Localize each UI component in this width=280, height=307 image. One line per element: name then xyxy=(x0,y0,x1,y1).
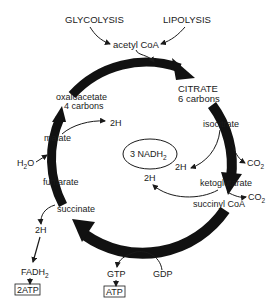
arrow-2h-to-fadh-icon xyxy=(33,237,40,262)
gtp-label: GTP xyxy=(107,269,126,279)
fadh-atp-label: 2ATP xyxy=(17,285,39,295)
h2o-label: H2O xyxy=(17,158,34,170)
input-lipolysis: LIPOLYSIS xyxy=(163,14,211,25)
arrow-keto-to-co2-icon xyxy=(227,192,246,197)
arc-succinate-to-oxaloacetate xyxy=(51,118,63,205)
gdp-label: GDP xyxy=(153,269,173,279)
succinate-2h: 2H xyxy=(35,225,47,235)
arrowhead-citrate-icon xyxy=(172,58,195,80)
arc-succinylcoa-to-succinate xyxy=(85,210,225,253)
node-ketoglutarate: ketoglutarate xyxy=(200,178,252,188)
arrow-succinate-to-2h-icon xyxy=(41,205,55,224)
node-isocitrate: isocitrate xyxy=(203,119,239,129)
node-succinyl-coa: succinyl CoA xyxy=(193,199,245,209)
arrow-isocitrate-to-2h-icon xyxy=(191,130,220,168)
node-oxaloacetate-line2: 4 carbons xyxy=(64,101,104,111)
arrow-h2o-to-cycle-icon xyxy=(36,155,47,162)
isocitrate-2h: 2H xyxy=(175,162,187,172)
arc-citrate-to-ketoglutarate xyxy=(212,105,232,178)
node-succinate: succinate xyxy=(57,204,95,214)
gtp-atp-label: ATP xyxy=(106,287,123,297)
node-citrate-line2: 6 carbons xyxy=(178,93,220,104)
entry-acetyl-coa: acetyl CoA xyxy=(113,39,160,50)
center-nadh-label: 3 NADH2 xyxy=(130,149,167,161)
malate-2h: 2H xyxy=(110,118,122,128)
node-malate: malate xyxy=(44,133,71,143)
node-fumarate: fumarate xyxy=(43,177,79,187)
input-glycolysis: GLYCOLYSIS xyxy=(65,14,124,25)
keto-co2: CO2 xyxy=(248,192,266,204)
krebs-cycle-diagram: GLYCOLYSIS LIPOLYSIS acetyl CoA CITRATE … xyxy=(0,0,280,307)
isocitrate-co2: CO2 xyxy=(247,158,265,170)
arrow-lipolysis-to-acetylcoa-icon xyxy=(161,27,185,44)
keto-2h: 2H xyxy=(144,173,156,183)
arc-oxaloacetate-to-citrate xyxy=(72,62,180,95)
fadh2-label: FADH2 xyxy=(21,267,49,279)
arrow-glycolysis-to-acetylcoa-icon xyxy=(90,27,110,44)
